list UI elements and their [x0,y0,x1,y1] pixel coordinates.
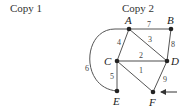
weight-c-f: 1 [139,66,143,75]
weight-d-f: 9 [163,75,167,84]
node-label-e: E [112,95,120,107]
node-label-c: C [104,55,112,67]
weight-a-b: 7 [147,20,151,29]
node-label-a: A [124,14,132,26]
edges [90,29,171,92]
graph-diagram: A B C D E F 7 4 3 8 2 1 5 9 6 [0,0,180,112]
node-a [127,27,132,32]
weight-b-d: 8 [171,40,175,49]
node-label-f: F [148,96,156,108]
edge-c-f [117,61,153,92]
node-d [165,59,170,64]
weight-a-e: 6 [85,64,89,73]
weight-a-c: 4 [117,38,121,47]
node-b [169,27,174,32]
weight-c-e: 5 [110,72,114,81]
weight-a-d: 3 [148,35,152,44]
node-label-b: B [167,14,174,26]
node-f [151,90,156,95]
node-e [115,89,120,94]
edge-a-d [129,29,167,61]
node-c [115,59,120,64]
node-label-d: D [170,55,179,67]
weight-c-d: 2 [139,51,143,60]
